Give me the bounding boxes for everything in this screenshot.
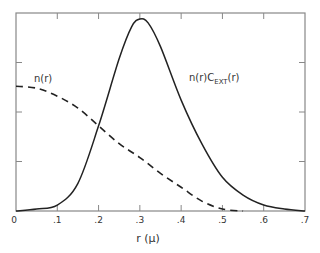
x-tick-label: .2 <box>94 215 103 225</box>
x-tick-label: .7 <box>301 215 310 225</box>
x-tick-label: .3 <box>136 215 145 225</box>
label-n-r: n(r) <box>34 73 52 84</box>
axis-ticks <box>16 13 305 211</box>
series-n-r-dashed <box>16 86 243 211</box>
series-n-r-cext-solid <box>16 19 305 211</box>
chart-container: 0.1.2.3.4.5.6.7 n(r) n(r)CEXT(r) r (μ) <box>0 0 320 253</box>
x-tick-label: .4 <box>177 215 186 225</box>
x-tick-label: .5 <box>218 215 227 225</box>
plot-frame <box>16 13 305 211</box>
label-n-r-cext: n(r)CEXT(r) <box>189 72 240 86</box>
line-chart: 0.1.2.3.4.5.6.7 n(r) n(r)CEXT(r) r (μ) <box>0 0 320 253</box>
x-tick-label: .1 <box>53 215 62 225</box>
x-tick-label: .6 <box>259 215 268 225</box>
x-tick-label: 0 <box>11 215 17 225</box>
x-tick-labels: 0.1.2.3.4.5.6.7 <box>11 215 309 225</box>
plot-border <box>16 13 305 211</box>
x-axis-label: r (μ) <box>136 232 160 245</box>
